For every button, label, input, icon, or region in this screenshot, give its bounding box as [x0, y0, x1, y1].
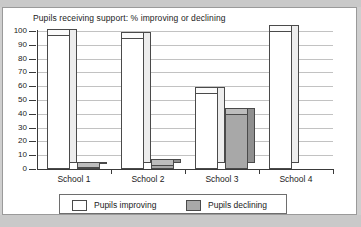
bar-declining-1 [77, 168, 100, 169]
bar-improving-3 [195, 93, 218, 169]
y-axis-tick-label: 80 [3, 55, 27, 63]
chart-title: Pupils receiving support: % improving or… [33, 13, 226, 23]
bar-side-face [248, 108, 255, 163]
bar-side-face [100, 162, 107, 164]
y-axis-tick-label: 100 [3, 27, 27, 35]
scan-band-top [0, 0, 361, 7]
y-axis-tick-label: 30 [3, 124, 27, 132]
y-axis-tick-label: 70 [3, 68, 27, 76]
y-axis-tick [29, 141, 36, 142]
y-axis-tick-label: 50 [3, 96, 27, 104]
y-axis-tick [29, 169, 36, 170]
y-axis-tick [29, 100, 36, 101]
y-axis-tick [29, 72, 36, 73]
bar-front-face [151, 165, 174, 169]
legend-swatch-improving [72, 200, 87, 211]
document-sheet: Pupils receiving support: % improving or… [2, 7, 357, 215]
bar-side-face [218, 87, 225, 163]
bar-improving-1 [47, 35, 70, 169]
y-axis-tick-label: 90 [3, 41, 27, 49]
bar-front-face [47, 35, 70, 169]
bar-front-face [121, 38, 144, 169]
x-axis-tick [333, 169, 334, 174]
bar-declining-3 [225, 114, 248, 169]
bar-side-face [70, 29, 77, 163]
y-axis-tick [29, 114, 36, 115]
bar-improving-2 [121, 38, 144, 169]
x-axis-label-3: School 3 [185, 174, 259, 184]
scan-band-bottom [0, 215, 361, 227]
y-axis-tick [29, 45, 36, 46]
legend-item-declining: Pupils declining [186, 198, 267, 212]
y-axis-tick-label: 10 [3, 151, 27, 159]
y-axis-tick [29, 128, 36, 129]
x-axis-label-2: School 2 [111, 174, 185, 184]
bar-chart: Pupils receiving support: % improving or… [3, 8, 358, 216]
y-axis-tick-label: 20 [3, 137, 27, 145]
bar-side-face [292, 25, 299, 163]
bar-front-face [77, 167, 100, 169]
bar-side-face [144, 32, 151, 163]
y-axis-tick-label: 0 [3, 165, 27, 173]
legend-label-declining: Pupils declining [208, 200, 267, 210]
y-axis-tick [29, 31, 36, 32]
y-axis-tick [29, 155, 36, 156]
y-axis-tick [29, 86, 36, 87]
y-axis-line [37, 30, 38, 170]
bar-front-face [195, 93, 218, 169]
y-axis-tick [29, 59, 36, 60]
bar-declining-2 [151, 165, 174, 169]
y-axis-tick-label: 60 [3, 82, 27, 90]
chart-legend: Pupils improving Pupils declining [59, 194, 287, 214]
bar-front-face [225, 114, 248, 169]
x-axis-label-1: School 1 [37, 174, 111, 184]
screenshot-root: Pupils receiving support: % improving or… [0, 0, 361, 227]
legend-label-improving: Pupils improving [94, 200, 156, 210]
bar-front-face [269, 31, 292, 169]
x-axis-label-4: School 4 [259, 174, 333, 184]
y-axis-tick-label: 40 [3, 110, 27, 118]
bar-improving-4 [269, 31, 292, 169]
bar-side-face [174, 159, 181, 163]
legend-item-improving: Pupils improving [72, 198, 156, 212]
legend-swatch-declining [186, 200, 201, 211]
